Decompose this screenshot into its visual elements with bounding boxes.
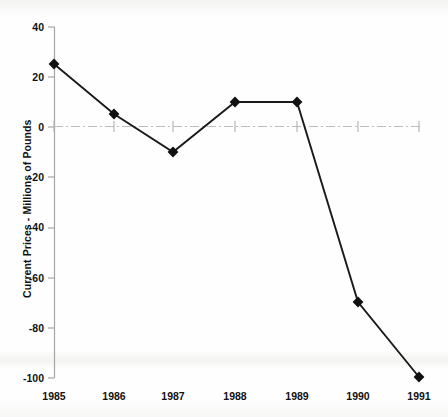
data-series-line — [54, 64, 419, 377]
line-chart: Current Prices - Millions of Pounds 40 2… — [0, 0, 448, 417]
plot-area — [0, 0, 448, 417]
data-point-marker — [292, 97, 303, 108]
y-axis-ticks — [48, 27, 55, 378]
